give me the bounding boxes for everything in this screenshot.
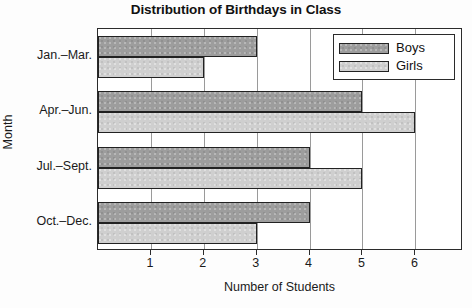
page-title: Distribution of Birthdays in Class [0,2,472,17]
x-tick-label-4: 4 [294,256,324,270]
chart-legend: Boys Girls [333,34,455,80]
x-tick-label-6: 6 [399,256,429,270]
x-tick-label-5: 5 [346,256,376,270]
legend-swatch-boys-icon [339,43,389,54]
x-tick-label-1: 1 [135,256,165,270]
y-axis-title: Month [1,102,15,162]
x-tick-mark-4 [309,250,310,255]
x-tick-mark-6 [414,250,415,255]
x-tick-mark-2 [203,250,204,255]
x-tick-mark-3 [256,250,257,255]
x-tick-mark-1 [150,250,151,255]
legend-item-boys: Boys [339,39,449,57]
chart-screenshot: Distribution of Birthdays in Class Jan.–… [0,0,472,308]
legend-item-girls: Girls [339,57,449,75]
y-axis-label-4: Oct.–Dec. [0,214,92,228]
legend-label-girls: Girls [396,59,423,73]
x-tick-label-2: 2 [188,256,218,270]
legend-swatch-girls-icon [339,61,389,72]
x-axis-title: Number of Students [97,280,462,294]
x-tick-mark-5 [361,250,362,255]
legend-label-boys: Boys [396,41,425,55]
y-axis-label-1: Jan.–Mar. [0,48,92,62]
x-tick-label-3: 3 [241,256,271,270]
